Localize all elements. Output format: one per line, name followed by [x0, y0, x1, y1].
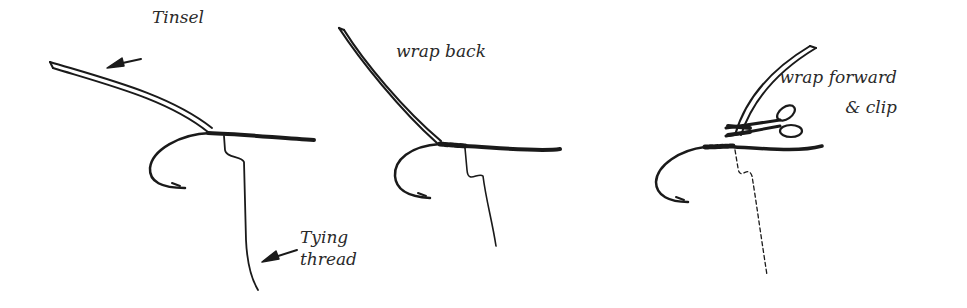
scissors-icon — [726, 102, 802, 137]
and-clip-label: & clip — [845, 98, 897, 117]
tying-thread-icon — [224, 136, 258, 290]
tying-thread-label-line2: thread — [300, 250, 357, 269]
wrap-forward-label: wrap forward — [780, 68, 897, 87]
tinsel-strip-icon — [50, 62, 212, 132]
tying-thread-icon — [465, 148, 496, 246]
tinsel-label: Tinsel — [152, 8, 204, 27]
tying-thread-label-line1: Tying — [300, 228, 348, 247]
hook-bend-icon — [150, 133, 210, 188]
hook-bend-icon — [395, 144, 440, 198]
tinsel-wraps-icon — [440, 144, 465, 146]
tinsel-wraps-icon — [705, 146, 733, 147]
tinsel-arrow-icon — [107, 58, 141, 68]
thread-arrow-icon — [262, 250, 297, 262]
tying-thread-icon — [735, 150, 767, 275]
wrap-back-label: wrap back — [396, 42, 486, 61]
panel-1-drawing — [50, 58, 314, 290]
hook-shank-icon — [735, 146, 822, 150]
tying-diagram: Tinsel Tying thread wrap back wrap forwa… — [0, 0, 967, 308]
hook-shank-icon — [465, 146, 560, 150]
hook-bend-icon — [656, 147, 705, 202]
